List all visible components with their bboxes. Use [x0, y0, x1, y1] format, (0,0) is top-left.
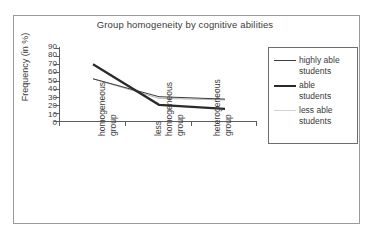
x-category-label-heterogeneous-2: group — [224, 114, 233, 136]
x-tick-mark — [191, 121, 192, 126]
series-line-highly-able — [93, 79, 225, 99]
legend-label-line: less able — [299, 105, 333, 116]
legend-label-line: able — [299, 80, 331, 91]
x-tick-mark — [256, 121, 257, 126]
y-tick-label: 20 — [48, 103, 57, 109]
x-category-line: group — [224, 114, 233, 136]
chart-figure: Group homogeneity by cognitive abilities… — [0, 0, 376, 240]
y-tick-mark — [54, 81, 59, 82]
x-category-label-homogeneous-2: group — [109, 114, 118, 136]
y-tick-mark — [54, 72, 59, 73]
legend-line-icon-able — [274, 80, 296, 90]
y-tick-mark — [54, 105, 59, 106]
legend-label-line: students — [299, 66, 340, 77]
y-tick-mark — [54, 113, 59, 114]
y-tick-mark — [54, 89, 59, 90]
series-plot — [60, 48, 256, 121]
x-tick-mark — [125, 121, 126, 126]
legend-label-less-able: less able students — [299, 105, 333, 126]
legend-label-line: highly able — [299, 55, 340, 66]
legend-item-able: able students — [269, 80, 357, 101]
x-category-line: group — [176, 114, 185, 136]
y-tick-label: 90 — [48, 44, 57, 50]
x-category-label-less-homogeneous: homogeneous — [165, 82, 174, 136]
y-tick-mark — [54, 56, 59, 57]
y-axis-title: Frequency (in %) — [20, 27, 30, 107]
x-category-label-homogeneous: homogeneous — [98, 82, 107, 136]
x-tick-mark — [59, 121, 60, 126]
y-tick-mark — [54, 48, 59, 49]
x-category-line: homogeneous — [165, 82, 174, 136]
y-tick-mark — [54, 97, 59, 98]
legend-line-icon-highly-able — [274, 55, 296, 65]
legend-label-line: students — [299, 91, 331, 102]
chart-title: Group homogeneity by cognitive abilities — [60, 19, 310, 30]
legend-label-highly-able: highly able students — [299, 55, 340, 76]
legend-line-icon-less-able — [274, 105, 296, 115]
x-category-label-heterogeneous: heterogeneous — [213, 79, 222, 136]
chart-legend: highly able students able students less … — [268, 47, 358, 144]
x-category-line: homogeneous — [98, 82, 107, 136]
x-category-label-less: less — [154, 121, 163, 136]
x-category-line: less — [154, 121, 163, 136]
legend-label-able: able students — [299, 80, 331, 101]
series-line-able — [93, 64, 225, 109]
y-tick-mark — [54, 64, 59, 65]
x-category-line: group — [109, 114, 118, 136]
x-category-label-less-group: group — [176, 114, 185, 136]
legend-label-line: students — [299, 116, 333, 127]
legend-item-highly-able: highly able students — [269, 55, 357, 76]
legend-item-less-able: less able students — [269, 105, 357, 126]
x-category-line: heterogeneous — [213, 79, 222, 136]
